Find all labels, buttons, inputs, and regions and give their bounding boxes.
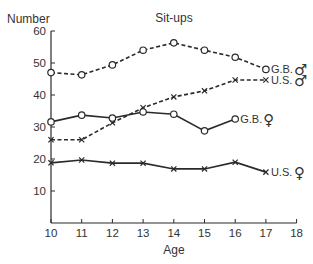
x-marker-icon [263, 77, 268, 82]
circle-marker-icon [232, 116, 238, 122]
series-end-label: U.S. [271, 74, 292, 86]
circle-marker-icon [48, 119, 54, 125]
x-tick-label: 13 [137, 227, 150, 239]
x-tick-label: 14 [167, 227, 180, 239]
female-symbol-icon: ♀ [263, 111, 274, 129]
x-tick-label: 12 [106, 227, 119, 239]
y-tick-label: 40 [33, 89, 46, 101]
circle-marker-icon [232, 54, 238, 60]
female-symbol-icon: ♀ [294, 164, 305, 182]
series-group [48, 40, 269, 175]
series-end-label: U.S. [271, 166, 292, 178]
x-tick-label: 17 [260, 227, 273, 239]
series-gb-male [48, 40, 269, 78]
circle-marker-icon [201, 47, 207, 53]
circle-marker-icon [263, 66, 269, 72]
x-tick-label: 18 [290, 227, 303, 239]
circle-marker-icon [109, 62, 115, 68]
y-tick-label: 60 [33, 25, 46, 37]
circle-marker-icon [140, 109, 146, 115]
circle-marker-icon [171, 111, 177, 117]
y-tick-label: 50 [33, 57, 46, 69]
circle-marker-icon [171, 40, 177, 46]
y-tick-label: 20 [33, 153, 46, 165]
series-gb-female [48, 109, 239, 134]
x-tick-label: 16 [229, 227, 242, 239]
y-axis-label: Number [7, 12, 50, 26]
series-us-female [48, 157, 268, 174]
male-symbol-icon: ♂ [294, 72, 307, 90]
sit-ups-line-chart: Number Sit-ups Age 102030405060101112131… [0, 0, 313, 264]
axes: 102030405060101112131415161718 [33, 25, 303, 239]
x-tick-label: 10 [45, 227, 58, 239]
series-end-label: G.B. [240, 113, 262, 125]
circle-marker-icon [79, 72, 85, 78]
circle-marker-icon [109, 115, 115, 121]
circle-marker-icon [140, 47, 146, 53]
series-line [51, 80, 266, 140]
y-tick-label: 10 [33, 185, 46, 197]
circle-marker-icon [48, 69, 54, 75]
series-us-male [48, 77, 268, 142]
chart-title: Sit-ups [155, 11, 192, 25]
x-tick-label: 15 [198, 227, 211, 239]
x-axis-label: Age [163, 243, 185, 257]
circle-marker-icon [201, 128, 207, 134]
circle-marker-icon [79, 112, 85, 118]
y-tick-label: 30 [33, 121, 46, 133]
x-tick-label: 11 [76, 227, 88, 239]
